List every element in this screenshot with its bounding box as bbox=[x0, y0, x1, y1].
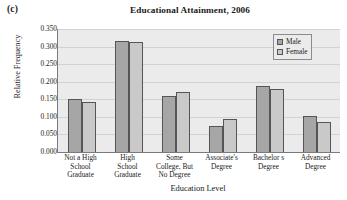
y-tick-label: 0.350 bbox=[29, 25, 57, 32]
bar-female[interactable] bbox=[176, 92, 190, 152]
y-axis-title: Relative Frequency bbox=[13, 19, 22, 115]
bar-group bbox=[58, 29, 105, 152]
bar-female[interactable] bbox=[223, 119, 237, 152]
y-tick-label: 0.200 bbox=[29, 78, 57, 85]
y-tick-label: 0.100 bbox=[29, 113, 57, 120]
x-tick-label: Bachelor sDegree bbox=[245, 154, 292, 180]
y-tick-label: 0.250 bbox=[29, 60, 57, 67]
chart-legend: MaleFemale bbox=[273, 34, 312, 60]
bar-female[interactable] bbox=[317, 122, 331, 152]
bar-group bbox=[152, 29, 199, 152]
figure-panel: (c) Educational Attainment, 2006 Relativ… bbox=[0, 0, 347, 200]
bar-group bbox=[105, 29, 152, 152]
x-tick-label: HighSchoolGraduate bbox=[104, 154, 151, 180]
x-tick-label: SomeCollege, ButNo Degree bbox=[151, 154, 198, 180]
bar-female[interactable] bbox=[82, 102, 96, 152]
bar-male[interactable] bbox=[256, 86, 270, 152]
y-tick-label: 0.300 bbox=[29, 43, 57, 50]
x-tick-label: Not a HighSchoolGraduate bbox=[57, 154, 104, 180]
legend-item-male[interactable]: Male bbox=[277, 37, 307, 47]
bar-female[interactable] bbox=[270, 89, 284, 152]
x-axis-tick-labels: Not a HighSchoolGraduateHighSchoolGradua… bbox=[57, 154, 339, 180]
bar-group bbox=[199, 29, 246, 152]
x-tick-label-line: Graduate bbox=[105, 171, 150, 180]
y-axis-ticks: 0.3500.3000.2500.2000.1500.1000.0500.000 bbox=[24, 29, 57, 152]
x-tick-label: Associate'sDegree bbox=[198, 154, 245, 180]
y-tick-label: 0.000 bbox=[29, 148, 57, 155]
bar-female[interactable] bbox=[129, 42, 143, 152]
x-axis-title: Education Level bbox=[57, 184, 339, 193]
legend-item-label: Male bbox=[286, 37, 301, 47]
bar-male[interactable] bbox=[303, 116, 317, 152]
x-tick-label: AdvancedDegree bbox=[292, 154, 339, 180]
bar-male[interactable] bbox=[68, 99, 82, 152]
bar-male[interactable] bbox=[162, 96, 176, 152]
x-tick-label-line: Degree bbox=[246, 163, 291, 172]
bar-male[interactable] bbox=[209, 126, 223, 152]
legend-item-female[interactable]: Female bbox=[277, 47, 307, 57]
x-tick-label-line: Graduate bbox=[58, 171, 103, 180]
panel-letter-label: (c) bbox=[7, 4, 18, 14]
x-tick-label-line: Degree bbox=[199, 163, 244, 172]
y-tick-label: 0.050 bbox=[29, 131, 57, 138]
y-tick-label: 0.150 bbox=[29, 96, 57, 103]
x-tick-label-line: No Degree bbox=[152, 171, 197, 180]
legend-item-label: Female bbox=[286, 47, 307, 57]
legend-swatch-icon bbox=[277, 39, 283, 45]
chart-title: Educational Attainment, 2006 bbox=[40, 5, 340, 15]
x-tick-label-line: Degree bbox=[293, 163, 338, 172]
bar-male[interactable] bbox=[115, 41, 129, 152]
legend-swatch-icon bbox=[277, 49, 283, 55]
